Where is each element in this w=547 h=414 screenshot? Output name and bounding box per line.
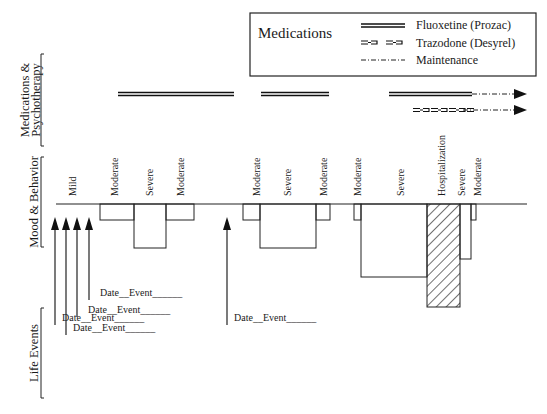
medication-bar-fluoxetine: [389, 93, 472, 96]
mood-label: Moderate: [109, 157, 120, 196]
mood-segment-severe: Severe: [260, 168, 316, 248]
medications-label-line2: Psychotherapy: [29, 62, 43, 136]
mood-label: Moderate: [175, 157, 186, 196]
life-event-label: Date__Event______: [73, 322, 156, 333]
life-events-bracket: [41, 308, 44, 398]
mood-label: Moderate: [251, 157, 262, 196]
up-arrow-icon: [223, 217, 231, 230]
mood-segment-mild: Mild: [67, 177, 78, 196]
mood-chart-diagram: Medications Fluoxetine (Prozac) Trazodon…: [0, 0, 547, 414]
section-life-events: Life Events: [27, 308, 44, 398]
life-events-label: Life Events: [27, 324, 41, 382]
mood-segment-moderate: Moderate: [243, 157, 262, 220]
mood-segment-severe: Severe: [361, 168, 427, 277]
legend-title: Medications: [258, 25, 332, 41]
life-event-label: Date__Event______: [234, 312, 317, 323]
medication-bar-fluoxetine: [261, 93, 329, 96]
mood-segments: MildModerateSevereModerateModerateSevere…: [67, 135, 483, 307]
legend-label-trazodone: Trazodone (Desyrel): [416, 36, 515, 50]
section-mood: Mood & Behavior: [27, 155, 44, 247]
legend: Medications Fluoxetine (Prozac) Trazodon…: [250, 13, 536, 76]
mood-label: Severe: [144, 168, 155, 196]
life-event-label: Date__Event______: [88, 304, 171, 315]
medication-bar-fluoxetine: [118, 93, 234, 96]
life-events: Date__Event______Date__Event______Date__…: [51, 217, 317, 335]
legend-label-maintenance: Maintenance: [416, 53, 478, 67]
up-arrow-icon: [51, 217, 59, 230]
mood-segment-moderate: Moderate: [316, 157, 330, 220]
up-arrow-icon: [73, 217, 81, 230]
life-event-3: Date__Event______: [73, 217, 171, 317]
mood-label: Severe: [456, 168, 467, 196]
up-arrow-icon: [62, 217, 70, 230]
mood-label: Hospitalization: [436, 135, 447, 196]
mood-segment-moderate: Moderate: [100, 157, 134, 220]
mood-label: Mild: [67, 177, 78, 196]
mood-label: Moderate: [318, 157, 329, 196]
mood-segment-moderate: Moderate: [166, 157, 194, 220]
section-medications: Medications & Psychotherapy: [18, 54, 44, 146]
mood-bracket: [41, 157, 44, 247]
medication-bars: [118, 89, 527, 115]
mood-label: Moderate: [352, 157, 363, 196]
up-arrow-icon: [85, 217, 93, 230]
legend-label-fluoxetine: Fluoxetine (Prozac): [416, 18, 511, 32]
mood-label: Mood & Behavior: [27, 155, 41, 247]
life-event-label: Date__Event______: [100, 287, 183, 298]
life-event-5: Date__Event______: [223, 217, 317, 325]
mood-label: Severe: [282, 168, 293, 196]
maintenance-arrow: [472, 89, 527, 99]
mood-label: Severe: [395, 168, 406, 196]
mood-segment-moderate: Moderate: [471, 157, 483, 220]
mood-segment-severe: Severe: [134, 168, 166, 248]
maintenance-arrow: [463, 105, 527, 115]
mood-segment-hospitalization: Hospitalization: [427, 135, 460, 307]
mood-label: Moderate: [472, 157, 483, 196]
